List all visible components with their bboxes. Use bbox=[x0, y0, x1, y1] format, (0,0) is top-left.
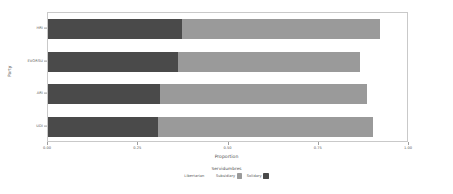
y-tick-label: ARI bbox=[0, 91, 43, 95]
bar-row bbox=[48, 19, 407, 39]
chart-legend: Servidumbres LibertarianSubsidiarySolida… bbox=[0, 166, 453, 179]
y-tick-label: EVORSU bbox=[0, 59, 43, 63]
y-tick-label: HRI bbox=[0, 26, 43, 30]
x-tick-label: 0.75 bbox=[314, 146, 322, 150]
legend-entry[interactable]: Libertarian bbox=[184, 173, 211, 178]
legend-label: Subsidiary bbox=[216, 174, 235, 178]
chart-figure: Party HRIEVORSUARIUDI 0.000.250.500.751.… bbox=[0, 0, 453, 194]
legend-title: Servidumbres bbox=[0, 166, 453, 171]
y-axis-title: Party bbox=[7, 66, 12, 77]
bar-segment-solidary bbox=[48, 117, 158, 137]
x-tick-mark bbox=[228, 142, 229, 145]
bar-segment-subsidiary bbox=[178, 52, 360, 72]
x-tick-mark bbox=[47, 142, 48, 145]
bar-segment-subsidiary bbox=[160, 84, 368, 104]
plot-panel bbox=[47, 12, 408, 142]
legend-color-key bbox=[206, 173, 211, 178]
bar-row bbox=[48, 117, 407, 137]
x-axis-title: Proportion bbox=[0, 154, 453, 159]
x-tick-mark bbox=[408, 142, 409, 145]
legend-entries: LibertarianSubsidiarySolidary bbox=[0, 173, 453, 178]
legend-label: Libertarian bbox=[184, 174, 204, 178]
legend-entry[interactable]: Solidary bbox=[247, 173, 269, 178]
bar-segment-solidary bbox=[48, 19, 182, 39]
bar-row bbox=[48, 84, 407, 104]
x-tick-label: 0.00 bbox=[43, 146, 51, 150]
x-tick-label: 0.25 bbox=[133, 146, 141, 150]
bar-segment-subsidiary bbox=[158, 117, 373, 137]
x-tick-mark bbox=[137, 142, 138, 145]
legend-entry[interactable]: Subsidiary bbox=[216, 173, 242, 178]
bar-row bbox=[48, 52, 407, 72]
legend-color-key bbox=[263, 173, 268, 178]
legend-color-key bbox=[237, 173, 242, 178]
plot-area bbox=[48, 13, 407, 141]
bar-segment-solidary bbox=[48, 84, 160, 104]
x-tick-mark bbox=[318, 142, 319, 145]
bar-segment-solidary bbox=[48, 52, 178, 72]
bar-segment-subsidiary bbox=[182, 19, 381, 39]
x-tick-label: 1.00 bbox=[404, 146, 412, 150]
y-tick-label: UDI bbox=[0, 124, 43, 128]
legend-label: Solidary bbox=[247, 174, 262, 178]
x-tick-label: 0.50 bbox=[223, 146, 231, 150]
